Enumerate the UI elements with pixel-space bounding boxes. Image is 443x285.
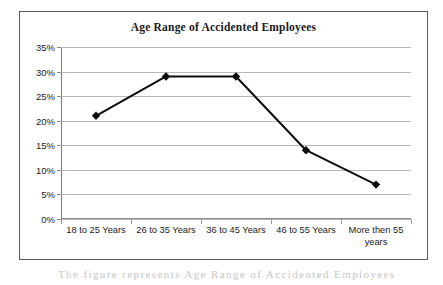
x-axis-label-line: 46 to 55 Years — [271, 224, 341, 236]
y-tick-label: 0% — [41, 214, 55, 225]
x-separator-tick — [411, 219, 412, 224]
chart-title: Age Range of Accidented Employees — [20, 21, 427, 33]
data-point-marker: 26 to 35 Years: 29% — [162, 72, 170, 80]
x-axis-label: 26 to 35 Years — [131, 224, 201, 248]
series-line — [96, 76, 376, 184]
figure-caption: The figure represents Age Range of Accid… — [58, 268, 408, 282]
x-axis-label-line: More then 55 — [341, 224, 411, 236]
x-axis-label: 46 to 55 Years — [271, 224, 341, 248]
x-axis-label: More then 55years — [341, 224, 411, 248]
y-tick-label: 5% — [41, 189, 55, 200]
data-point-marker: More then 55 years: 7% — [372, 180, 380, 188]
y-tick-label: 20% — [36, 115, 55, 126]
x-axis-label-line: years — [341, 236, 411, 248]
y-tick-label: 10% — [36, 164, 55, 175]
x-axis-label: 36 to 45 Years — [201, 224, 271, 248]
x-axis-label: 18 to 25 Years — [61, 224, 131, 248]
y-tick-label: 30% — [36, 66, 55, 77]
y-tick-label: 35% — [36, 42, 55, 53]
x-axis-label-line: 36 to 45 Years — [201, 224, 271, 236]
plot-area: 35%30%25%20%15%10%5%0% 18 to 25 Years: 2… — [61, 47, 411, 219]
y-tick-label: 25% — [36, 91, 55, 102]
line-series: 18 to 25 Years: 21%26 to 35 Years: 29%36… — [61, 47, 411, 219]
x-axis-label-line: 26 to 35 Years — [131, 224, 201, 236]
x-axis-label-line: 18 to 25 Years — [61, 224, 131, 236]
y-tick-label: 15% — [36, 140, 55, 151]
chart-frame: Age Range of Accidented Employees 35%30%… — [19, 11, 428, 260]
data-point-marker: 18 to 25 Years: 21% — [92, 112, 100, 120]
gridline — [61, 219, 411, 220]
x-axis-labels: 18 to 25 Years26 to 35 Years36 to 45 Yea… — [61, 224, 411, 248]
series-markers: 18 to 25 Years: 21%26 to 35 Years: 29%36… — [92, 72, 380, 189]
